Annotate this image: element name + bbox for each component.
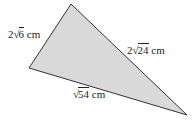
- radicand: 54: [78, 87, 89, 100]
- side-label-left: 2√6 cm: [8, 28, 40, 40]
- radical: √6: [14, 28, 25, 40]
- radicand: 6: [19, 27, 25, 40]
- radical: √54: [73, 88, 89, 100]
- side-label-right: 2√24 cm: [127, 44, 165, 56]
- radical: √24: [133, 44, 149, 56]
- side-label-bottom: √54 cm: [73, 88, 105, 100]
- unit: cm: [24, 28, 40, 40]
- radicand: 24: [138, 43, 149, 56]
- triangle-shape: [0, 0, 192, 125]
- triangle-diagram: 2√6 cm 2√24 cm √54 cm: [0, 0, 192, 125]
- unit: cm: [89, 88, 105, 100]
- triangle-polygon: [29, 4, 187, 115]
- unit: cm: [149, 44, 165, 56]
